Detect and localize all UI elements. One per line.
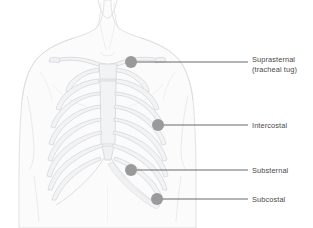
label-intercostal: Intercostal [252, 121, 287, 131]
label-subcostal-line1: Subcostal [252, 195, 285, 204]
label-suprasternal-line2: (tracheal tug) [252, 65, 297, 75]
left-acromion [49, 57, 60, 63]
label-substernal-line1: Substernal [252, 166, 288, 175]
marker-dot-suprasternal[interactable] [125, 56, 137, 68]
marker-dot-intercostal[interactable] [152, 119, 164, 131]
anterior-thorax-illustration [0, 0, 313, 228]
label-intercostal-line1: Intercostal [252, 121, 287, 130]
label-suprasternal-line1: Suprasternal [252, 55, 295, 64]
marker-dot-subcostal[interactable] [151, 193, 163, 205]
recession-sites-figure: Suprasternal (tracheal tug) Intercostal … [0, 0, 313, 228]
label-suprasternal: Suprasternal (tracheal tug) [252, 55, 297, 74]
label-substernal: Substernal [252, 166, 288, 176]
label-subcostal: Subcostal [252, 195, 285, 205]
sternal-body [100, 81, 116, 144]
manubrium [99, 64, 117, 79]
marker-dot-substernal[interactable] [125, 164, 137, 176]
